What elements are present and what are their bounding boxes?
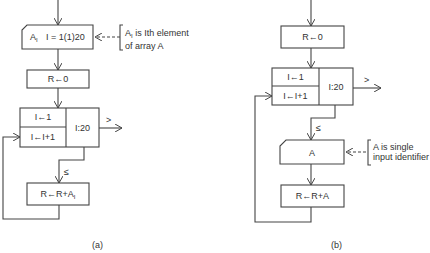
continue-label-b: ≤: [316, 123, 321, 133]
caption-a: (a): [92, 240, 103, 250]
annotation-bracket-a: [120, 25, 123, 50]
exit-label-b: >: [364, 75, 369, 85]
accumulate-label-a: R←R+AI: [27, 189, 89, 202]
loop-test-b: I:20: [319, 82, 353, 92]
init-label-a: R←0: [27, 74, 89, 84]
input-range-a: I = 1(1)20: [46, 32, 85, 42]
input-label-a: AI: [30, 32, 38, 45]
annotation-text-a: AI is Ith elementof array A: [125, 28, 189, 51]
loop-init-b: I←1: [272, 72, 319, 82]
annotation-text-b: A is singleinput identifier: [373, 142, 429, 162]
loop-init-a: I←1: [20, 112, 66, 122]
annotation-bracket-b: [368, 140, 371, 165]
caption-b: (b): [331, 240, 342, 250]
accumulate-label-b: R←R+A: [281, 191, 344, 201]
input-label-b: A: [280, 148, 344, 158]
init-label-b: R←0: [281, 32, 344, 42]
exit-label-a: >: [106, 115, 111, 125]
loop-test-a: I:20: [66, 123, 99, 133]
loop-back-b: [255, 96, 311, 222]
loop-increment-a: I←I+1: [20, 132, 66, 142]
loop-back-a: [3, 137, 59, 219]
continue-label-a: ≤: [64, 167, 69, 177]
loop-increment-b: I←I+1: [272, 91, 319, 101]
